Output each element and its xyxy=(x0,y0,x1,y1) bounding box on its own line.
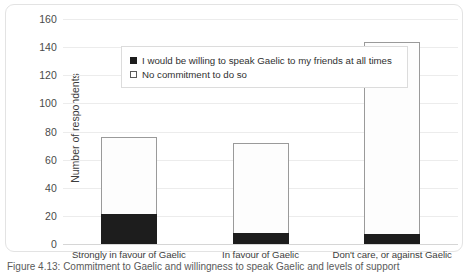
bar-segment-willing xyxy=(233,233,289,244)
legend-item-willing: I would be willing to speak Gaelic to my… xyxy=(130,55,398,66)
chart-screenshot: Number of respondents 160 140 120 100 80… xyxy=(0,0,470,273)
y-tick-0: 0 xyxy=(51,238,57,250)
filled-square-icon xyxy=(130,57,137,64)
bar-segment-no-commitment xyxy=(233,143,289,233)
x-axis-labels: Strongly in favour of GaelicIn favour of… xyxy=(63,249,458,260)
y-tick-160: 160 xyxy=(39,13,57,25)
legend-item-no-commitment: No commitment to do so xyxy=(130,69,398,80)
y-tick-100: 100 xyxy=(39,97,57,109)
x-axis-label: In favour of Gaelic xyxy=(195,249,327,260)
x-axis-label: Don't care, or against Gaelic xyxy=(326,249,458,260)
stacked-bar xyxy=(233,143,289,244)
gridline-0 xyxy=(63,244,458,245)
chart-legend: I would be willing to speak Gaelic to my… xyxy=(121,46,408,88)
legend-label-no-commitment: No commitment to do so xyxy=(142,69,247,80)
legend-label-willing: I would be willing to speak Gaelic to my… xyxy=(142,55,392,66)
plot-area: 160 140 120 100 80 60 40 20 0 I would be… xyxy=(63,19,458,244)
y-tick-140: 140 xyxy=(39,41,57,53)
bar-segment-willing xyxy=(101,214,157,244)
chart-frame: Number of respondents 160 140 120 100 80… xyxy=(5,4,463,252)
y-tick-80: 80 xyxy=(45,126,57,138)
y-tick-60: 60 xyxy=(45,154,57,166)
y-tick-20: 20 xyxy=(45,210,57,222)
y-tick-120: 120 xyxy=(39,69,57,81)
hollow-square-icon xyxy=(130,71,137,78)
bar-segment-willing xyxy=(364,234,420,244)
figure-caption: Figure 4.13: Commitment to Gaelic and wi… xyxy=(7,261,463,273)
x-axis-label: Strongly in favour of Gaelic xyxy=(63,249,195,260)
stacked-bar xyxy=(101,137,157,244)
bar-segment-no-commitment xyxy=(101,137,157,214)
y-tick-40: 40 xyxy=(45,182,57,194)
